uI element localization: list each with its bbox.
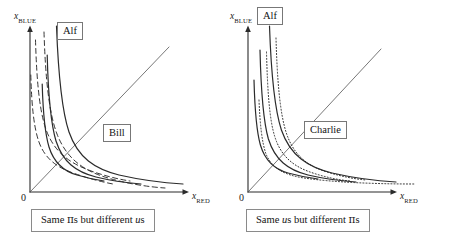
alf-curve-3-right bbox=[270, 26, 397, 182]
figure-root: xBLUE xRED 0 Alf Bill Same πs but differ… bbox=[0, 0, 455, 244]
panel-left-plot bbox=[0, 0, 228, 244]
charlie-curve-2 bbox=[267, 52, 351, 181]
origin-label-left: 0 bbox=[21, 193, 26, 203]
x-axis-right bbox=[248, 189, 397, 195]
y-axis-right bbox=[245, 26, 251, 193]
bill-label-left: Bill bbox=[103, 124, 131, 142]
charlie-label-right: Charlie bbox=[304, 121, 347, 139]
bill-curve-2 bbox=[31, 75, 113, 184]
panel-left: xBLUE xRED 0 Alf Bill Same πs but differ… bbox=[0, 0, 228, 244]
bill-curve-3 bbox=[44, 32, 165, 188]
caption-right: Same us but different πs bbox=[246, 209, 370, 232]
y-axis-label-right: xBLUE bbox=[230, 12, 252, 23]
alf-curve-3 bbox=[57, 26, 184, 184]
caption-left: Same πs but different us bbox=[31, 209, 155, 232]
alf-label-right: Alf bbox=[257, 7, 283, 25]
alf-label-left: Alf bbox=[57, 22, 83, 40]
x-axis-label-left: xRED bbox=[192, 192, 210, 203]
charlie-curve-1 bbox=[276, 38, 366, 180]
origin-label-right: 0 bbox=[239, 193, 244, 203]
diagonal-ray-right bbox=[249, 49, 381, 191]
x-axis-label-right: xRED bbox=[400, 192, 418, 203]
alf-curve-2-right bbox=[260, 50, 356, 182]
x-axis-left bbox=[30, 189, 189, 195]
panel-right: xBLUE xRED 0 Alf Charlie Same us but dif… bbox=[228, 0, 455, 244]
y-axis-label-left: xBLUE bbox=[14, 12, 36, 23]
y-axis-left bbox=[27, 26, 33, 193]
